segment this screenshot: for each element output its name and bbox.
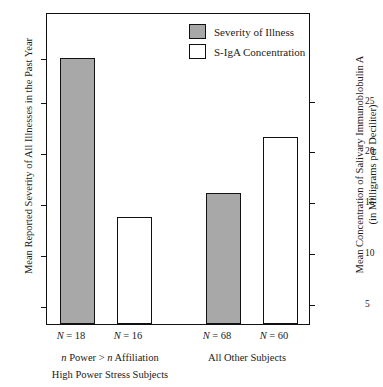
y-tick-right-15 <box>309 203 315 204</box>
legend-swatch-siga-icon <box>189 44 206 59</box>
legend-item-severity[interactable]: Severity of Illness <box>189 24 305 39</box>
y-ticklabel-right-25: 25 <box>365 97 383 107</box>
x-label-n60-italic-n: N <box>260 330 267 341</box>
y-tick-right-10 <box>309 254 315 255</box>
x-label-n18-italic-n: N <box>57 330 64 341</box>
bar-severity-n68[interactable] <box>206 193 241 324</box>
x-label-n68-italic-n: N <box>203 330 210 341</box>
x-label-n16: N = 16 <box>93 330 163 341</box>
y-tick-right-5 <box>309 305 315 306</box>
y-ticklabel-right-10: 10 <box>365 249 383 259</box>
y-ticklabel-right-20: 20 <box>365 147 383 157</box>
group-label-high-power-line2: High Power Stress Subjects <box>20 369 200 381</box>
y-tick-left-100 <box>41 103 47 104</box>
legend-label-severity: Severity of Illness <box>214 26 294 38</box>
group-label-all-other: All Other Subjects <box>182 352 312 364</box>
bar-siga-n16[interactable] <box>117 217 152 324</box>
y-axis-left-title: Mean Reported Severity of All Illnesses … <box>23 31 35 281</box>
y-tick-left-110 <box>41 59 47 60</box>
x-label-n18-value: = 18 <box>64 330 86 341</box>
group-label-affiliation: Affiliation <box>112 352 158 363</box>
y-ticklabel-right-5: 5 <box>365 300 383 310</box>
x-label-n60: N = 60 <box>239 330 309 341</box>
x-label-n16-value: = 16 <box>121 330 143 341</box>
group-label-power: Power > <box>67 352 108 363</box>
bar-severity-n18[interactable] <box>60 58 95 324</box>
x-label-n16-italic-n: N <box>114 330 121 341</box>
bar-siga-n60[interactable] <box>263 137 298 324</box>
legend-swatch-severity-icon <box>189 24 206 39</box>
legend-item-siga[interactable]: S-IgA Concentration <box>189 44 305 59</box>
group-label-high-power-line1: n Power > n Affiliation <box>20 352 200 364</box>
legend: Severity of Illness S-IgA Concentration <box>189 24 305 64</box>
x-label-n68-value: = 68 <box>210 330 232 341</box>
x-label-n60-value: = 60 <box>267 330 289 341</box>
y-tick-left-60 <box>41 205 47 206</box>
y-tick-left-20 <box>41 307 47 308</box>
plot-area: 110 100 80 60 40 20 25 20 15 10 5 <box>46 13 310 325</box>
y-tick-left-80 <box>41 154 47 155</box>
y-ticklabel-right-15: 15 <box>365 198 383 208</box>
legend-label-siga: S-IgA Concentration <box>214 46 305 58</box>
y-tick-left-40 <box>41 256 47 257</box>
y-tick-right-20 <box>309 152 315 153</box>
y-tick-right-25 <box>309 102 315 103</box>
